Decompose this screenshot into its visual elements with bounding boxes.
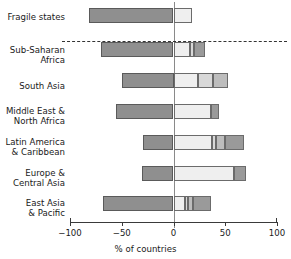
bar-segment-negative xyxy=(142,166,173,181)
bar-segment-negative xyxy=(116,104,174,119)
bar-segment-positive-3 xyxy=(213,73,229,88)
bar-segment-positive-3 xyxy=(216,135,225,150)
diverging-bar-chart: Fragile states Sub-Saharan Africa South … xyxy=(0,0,291,259)
category-label-middle-east-north-africa: Middle East & North Africa xyxy=(6,106,65,126)
bar-segment-positive-1 xyxy=(174,73,199,88)
category-label-europe-central-asia: Europe & Central Asia xyxy=(13,168,65,188)
fragile-states-separator xyxy=(62,41,287,42)
bar-segment-positive-1 xyxy=(174,196,185,211)
bar-segment-positive-1 xyxy=(174,104,211,119)
x-tick xyxy=(225,222,226,226)
bar-segment-negative xyxy=(89,8,174,23)
category-label-sub-saharan-africa: Sub-Saharan Africa xyxy=(10,45,65,65)
bar-row xyxy=(70,42,277,57)
bar-row xyxy=(70,73,277,88)
x-tick-label: 0 xyxy=(171,228,176,238)
bar-segment-positive-1 xyxy=(174,135,212,150)
bar-row xyxy=(70,196,277,211)
x-tick-label: 100 xyxy=(269,228,285,238)
bar-segment-positive-4 xyxy=(193,196,211,211)
bar-segment-positive-1 xyxy=(174,8,193,23)
x-tick-label: −50 xyxy=(113,228,131,238)
bar-segment-positive-1 xyxy=(174,166,234,181)
bar-row xyxy=(70,135,277,150)
bar-row xyxy=(70,166,277,181)
x-tick xyxy=(122,222,123,226)
bar-segment-positive-2 xyxy=(198,73,212,88)
bar-row xyxy=(70,104,277,119)
category-label-latin-america-caribbean: Latin America & Caribbean xyxy=(6,137,65,157)
bar-segment-negative xyxy=(103,196,173,211)
bar-row xyxy=(70,8,277,23)
category-label-east-asia-pacific: East Asia & Pacific xyxy=(26,198,65,218)
x-axis-title: % of countries xyxy=(0,244,291,254)
category-label-south-asia: South Asia xyxy=(19,81,65,91)
x-tick xyxy=(70,222,71,226)
bar-segment-negative xyxy=(143,135,173,150)
bar-segment-positive-4 xyxy=(194,42,204,57)
x-tick xyxy=(174,222,175,226)
x-tick xyxy=(277,222,278,226)
bar-segment-negative xyxy=(122,73,174,88)
bar-segment-positive-4 xyxy=(225,135,244,150)
bar-segment-positive-4 xyxy=(211,104,219,119)
bar-segment-positive-1 xyxy=(174,42,191,57)
category-label-fragile-states: Fragile states xyxy=(7,12,65,22)
bar-segment-negative xyxy=(101,42,173,57)
x-tick-label: −100 xyxy=(58,228,82,238)
bar-segment-positive-4 xyxy=(234,166,246,181)
x-tick-label: 50 xyxy=(220,228,231,238)
